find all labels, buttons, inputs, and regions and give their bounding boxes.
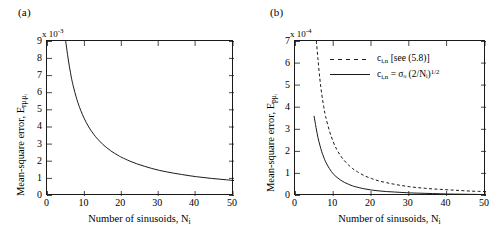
legend-key-solid-icon: [330, 74, 370, 75]
panel-b-ytick-6: 6: [270, 58, 290, 68]
panel-a-plot-svg: [47, 41, 234, 196]
panel-b-exponent: x 10-4: [290, 27, 312, 39]
legend-label-0: ci,n [see (5.8)]: [377, 54, 430, 64]
panel-b-x-axis-label-main: Number of sinusoids, N: [338, 213, 438, 224]
panel-a-exponent: x 10-3: [42, 27, 64, 39]
panel-a-series-0: [66, 41, 234, 181]
panel-a-ytick-3: 3: [22, 139, 42, 149]
panel-b-ytick-2: 2: [270, 146, 290, 156]
panel-a-ytick-2: 2: [22, 156, 42, 166]
panel-b-xtick-3: 30: [396, 198, 420, 208]
panel-a-label: (a): [18, 6, 31, 18]
panel-a-plot-area: [46, 40, 233, 195]
legend-label-1: ci,n = σₒ (2/Nᵢ)1/2: [377, 69, 439, 80]
panel-a-exponent-prefix: x 10: [42, 29, 58, 39]
panel-a-x-axis-label: Number of sinusoids, Ni: [46, 214, 233, 225]
panel-b-x-axis-label: Number of sinusoids, Ni: [294, 214, 485, 225]
panel-b-exponent-prefix: x 10: [290, 29, 306, 39]
panel-a-exponent-power: -3: [58, 27, 64, 35]
panel-a-x-axis-label-main: Number of sinusoids, N: [88, 213, 188, 224]
panel-b-exponent-power: -4: [306, 27, 312, 35]
panel-a-xtick-4: 40: [182, 198, 206, 208]
panel-a-ytick-1: 1: [22, 173, 42, 183]
panel-a-ytick-5: 5: [22, 104, 42, 114]
panel-b-ytick-3: 3: [270, 124, 290, 134]
panel-a-xtick-2: 20: [108, 198, 132, 208]
panel-b-xtick-2: 20: [358, 198, 382, 208]
legend-entry-0: ci,n [see (5.8)]: [330, 52, 439, 67]
panel-a-xtick-1: 10: [71, 198, 95, 208]
panel-a-y-ticks: [47, 42, 234, 196]
panel-a-ytick-6: 6: [22, 87, 42, 97]
panel-a-ytick-7: 7: [22, 70, 42, 80]
panel-a-xtick-5: 50: [220, 198, 244, 208]
legend-key-dashed-icon: [330, 59, 370, 60]
figure-container: (a) x 10-3 Mean-square error, Erμᵢμᵢ: [0, 0, 504, 242]
panel-b-ytick-7: 7: [270, 36, 290, 46]
panel-a: (a) x 10-3 Mean-square error, Erμᵢμᵢ: [0, 0, 252, 242]
panel-b-legend: ci,n [see (5.8)] ci,n = σₒ (2/Nᵢ)1/2: [330, 52, 439, 82]
panel-a-xtick-0: 0: [35, 198, 59, 208]
panel-b-xtick-5: 50: [472, 198, 496, 208]
legend-entry-1: ci,n = σₒ (2/Nᵢ)1/2: [330, 67, 439, 82]
panel-b-ytick-1: 1: [270, 168, 290, 178]
panel-b-label: (b): [270, 6, 283, 18]
panel-b-x-axis-label-sub: i: [439, 217, 441, 226]
panel-b-series-1: [314, 116, 486, 194]
panel-a-xtick-3: 30: [145, 198, 169, 208]
panel-b-ytick-5: 5: [270, 80, 290, 90]
panel-b-xtick-0: 0: [283, 198, 307, 208]
panel-b-ytick-4: 4: [270, 102, 290, 112]
panel-a-ytick-9: 9: [22, 36, 42, 46]
panel-b-xtick-1: 10: [320, 198, 344, 208]
panel-b: (b) x 10-4 Mean-square error, Epμᵢ: [252, 0, 504, 242]
panel-a-x-axis-label-sub: i: [189, 217, 191, 226]
panel-a-ytick-8: 8: [22, 53, 42, 63]
panel-b-xtick-4: 40: [434, 198, 458, 208]
panel-a-x-ticks: [48, 41, 234, 196]
panel-a-ytick-4: 4: [22, 121, 42, 131]
